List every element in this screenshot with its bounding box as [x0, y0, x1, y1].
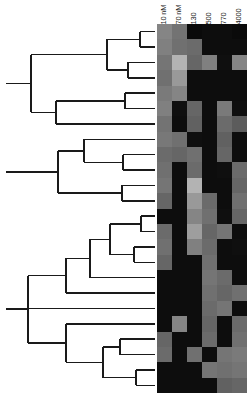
- heatmap-cell: [217, 209, 232, 225]
- heatmap-cell: [202, 224, 217, 240]
- heatmap-cell: [217, 316, 232, 332]
- heatmap-cell: [232, 178, 247, 194]
- heatmap-cell: [172, 24, 187, 40]
- heatmap-cell: [157, 162, 172, 178]
- heatmap-cell: [217, 86, 232, 102]
- heatmap-cell: [157, 70, 172, 86]
- heatmap-cell: [202, 301, 217, 317]
- heatmap-cell: [202, 347, 217, 363]
- heatmap-cell: [172, 362, 187, 378]
- heatmap-cell: [172, 270, 187, 286]
- heatmap-cell: [202, 70, 217, 86]
- heatmap-cell: [232, 86, 247, 102]
- heatmap-cell: [187, 332, 202, 348]
- heatmap-cell: [172, 239, 187, 255]
- heatmap-cell: [232, 55, 247, 71]
- heatmap-cell: [172, 39, 187, 55]
- heatmap-cell: [202, 178, 217, 194]
- heatmap-cell: [157, 316, 172, 332]
- heatmap-grid: [157, 24, 247, 393]
- heatmap-cell: [232, 255, 247, 271]
- heatmap-cell: [217, 285, 232, 301]
- heatmap-cell: [217, 255, 232, 271]
- heatmap-cell: [232, 316, 247, 332]
- heatmap-cell: [157, 239, 172, 255]
- heatmap-cell: [217, 101, 232, 117]
- heatmap-cell: [187, 178, 202, 194]
- heatmap-cell: [202, 86, 217, 102]
- heatmap-cell: [202, 285, 217, 301]
- heatmap-cell: [217, 332, 232, 348]
- heatmap-cell: [232, 101, 247, 117]
- heatmap-cell: [187, 24, 202, 40]
- heatmap-cell: [232, 224, 247, 240]
- heatmap-cell: [157, 39, 172, 55]
- dendrogram-svg: [0, 24, 157, 393]
- heatmap-cell: [157, 270, 172, 286]
- heatmap-cell: [172, 132, 187, 148]
- column-label: 770: [220, 12, 228, 24]
- heatmap-cell: [157, 193, 172, 209]
- heatmap-cell: [187, 362, 202, 378]
- heatmap-cell: [232, 24, 247, 40]
- heatmap-cell: [202, 147, 217, 163]
- dendrogram-panel: [0, 24, 157, 393]
- heatmap-cell: [202, 255, 217, 271]
- heatmap-cell: [157, 332, 172, 348]
- heatmap-cell: [232, 347, 247, 363]
- heatmap-cell: [172, 347, 187, 363]
- heatmap-cell: [187, 301, 202, 317]
- heatmap-cell: [232, 209, 247, 225]
- heatmap-cell: [202, 39, 217, 55]
- heatmap-cell: [157, 178, 172, 194]
- heatmap-cell: [217, 147, 232, 163]
- heatmap-cell: [202, 101, 217, 117]
- heatmap-cell: [187, 255, 202, 271]
- heatmap-cell: [172, 301, 187, 317]
- heatmap-cell: [232, 147, 247, 163]
- column-label: 500: [205, 12, 213, 24]
- heatmap-cell: [202, 378, 217, 393]
- heatmap-cell: [187, 270, 202, 286]
- heatmap-cell: [202, 239, 217, 255]
- heatmap-cell: [172, 178, 187, 194]
- heatmap-cell: [187, 347, 202, 363]
- heatmap-cell: [172, 378, 187, 393]
- heatmap-cell: [157, 86, 172, 102]
- heatmap-cell: [157, 101, 172, 117]
- heatmap-cell: [232, 362, 247, 378]
- dendrogram-heatmap-figure: 10 nM70 nM1305007704000: [0, 0, 247, 393]
- heatmap-cell: [172, 147, 187, 163]
- heatmap-cell: [232, 378, 247, 393]
- heatmap-cell: [172, 332, 187, 348]
- heatmap-cell: [232, 116, 247, 132]
- heatmap-cell: [187, 316, 202, 332]
- heatmap-cell: [187, 209, 202, 225]
- heatmap-cell: [232, 285, 247, 301]
- heatmap-cell: [187, 101, 202, 117]
- heatmap-cell: [232, 39, 247, 55]
- heatmap-cell: [232, 301, 247, 317]
- heatmap-cell: [232, 332, 247, 348]
- column-label: 130: [190, 12, 198, 24]
- heatmap-cell: [157, 255, 172, 271]
- heatmap-cell: [172, 285, 187, 301]
- heatmap-cell: [202, 55, 217, 71]
- heatmap-cell: [172, 193, 187, 209]
- heatmap-cell: [187, 193, 202, 209]
- heatmap-cell: [202, 332, 217, 348]
- column-label: 70 nM: [175, 4, 183, 24]
- dendrogram-branches: [6, 32, 155, 386]
- heatmap-cell: [202, 162, 217, 178]
- heatmap-cell: [202, 270, 217, 286]
- heatmap-cell: [217, 70, 232, 86]
- heatmap-cell: [217, 224, 232, 240]
- heatmap-cell: [232, 239, 247, 255]
- heatmap-cell: [172, 116, 187, 132]
- heatmap-cell: [187, 285, 202, 301]
- heatmap-cell: [187, 378, 202, 393]
- heatmap-cell: [172, 316, 187, 332]
- heatmap-cell: [202, 316, 217, 332]
- heatmap-cell: [157, 132, 172, 148]
- heatmap-cell: [187, 70, 202, 86]
